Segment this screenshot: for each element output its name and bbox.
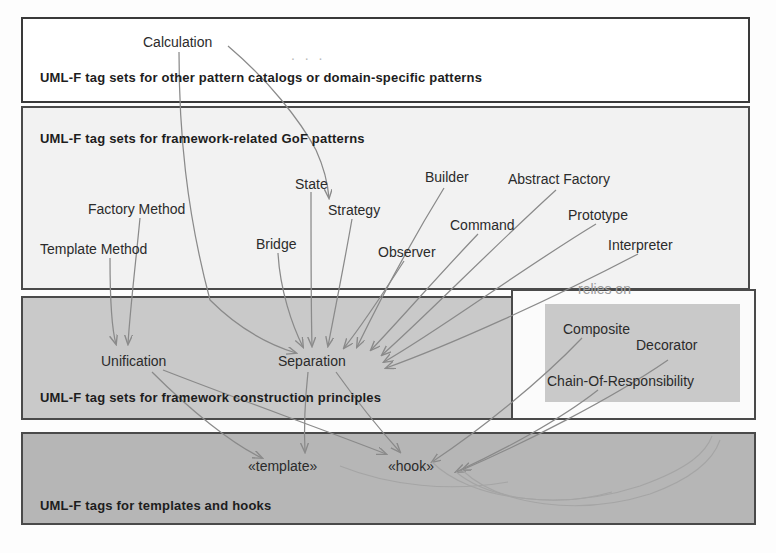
label-prototype: Prototype <box>568 207 628 223</box>
label-unification: Unification <box>101 353 166 369</box>
label-ellipsis: . . . <box>291 47 325 63</box>
label-command: Command <box>450 217 515 233</box>
panel-title-templates-hooks: UML-F tags for templates and hooks <box>40 498 271 513</box>
label-separation: Separation <box>278 353 346 369</box>
panel-title-gof-patterns: UML-F tag sets for framework-related GoF… <box>40 131 365 146</box>
label-template-method: Template Method <box>40 241 147 257</box>
panel-title-other-patterns: UML-F tag sets for other pattern catalog… <box>40 70 482 85</box>
panel-title-construction-principles: UML-F tag sets for framework constructio… <box>40 390 381 405</box>
label-hook-tag: «hook» <box>388 458 434 474</box>
label-bridge: Bridge <box>256 236 296 252</box>
label-builder: Builder <box>425 169 469 185</box>
label-chain-of-responsibility: Chain-Of-Responsibility <box>547 373 694 389</box>
panel-other-patterns <box>21 17 750 103</box>
diagram-canvas: UML-F tag sets for other pattern catalog… <box>0 0 776 553</box>
label-factory-method: Factory Method <box>88 201 185 217</box>
label-abstract-factory: Abstract Factory <box>508 171 610 187</box>
label-interpreter: Interpreter <box>608 237 673 253</box>
label-composite: Composite <box>563 321 630 337</box>
label-observer: Observer <box>378 244 436 260</box>
label-calculation: Calculation <box>143 34 212 50</box>
label-relies-on: relies on <box>578 281 631 297</box>
label-decorator: Decorator <box>636 337 697 353</box>
label-template-tag: «template» <box>248 458 317 474</box>
label-strategy: Strategy <box>328 202 380 218</box>
label-state: State <box>295 176 328 192</box>
